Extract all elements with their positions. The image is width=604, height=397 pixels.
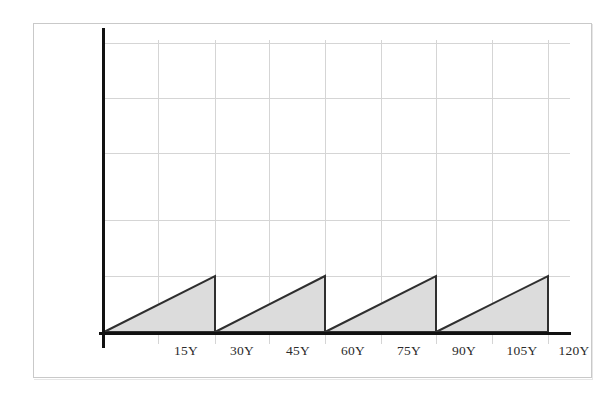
x-tick-label-30y: 30Y bbox=[230, 343, 254, 358]
sawtooth-series bbox=[104, 276, 548, 332]
horizontal-gridline-2 bbox=[103, 220, 570, 221]
vertical-gridlines bbox=[158, 40, 548, 344]
horizontal-gridlines bbox=[103, 43, 570, 277]
sawtooth-chart: 15Y 30Y 45Y 60Y 75Y 90Y 105Y 120Y bbox=[0, 0, 604, 397]
x-tick-label-90y: 90Y bbox=[452, 343, 476, 358]
horizontal-gridline-5 bbox=[103, 43, 570, 44]
x-tick-labels: 15Y 30Y 45Y 60Y 75Y 90Y 105Y 120Y bbox=[174, 343, 589, 358]
horizontal-gridline-1 bbox=[103, 276, 570, 277]
x-tick-label-15y: 15Y bbox=[174, 343, 198, 358]
horizontal-gridline-4 bbox=[103, 98, 570, 99]
x-tick-label-75y: 75Y bbox=[397, 343, 421, 358]
x-tick-label-45y: 45Y bbox=[286, 343, 310, 358]
ramp-cycle-2 bbox=[215, 276, 325, 332]
x-tick-label-120y: 120Y bbox=[559, 343, 590, 358]
horizontal-gridline-3 bbox=[103, 153, 570, 154]
x-tick-label-60y: 60Y bbox=[341, 343, 365, 358]
figure-root: 15Y 30Y 45Y 60Y 75Y 90Y 105Y 120Y bbox=[0, 0, 604, 397]
x-tick-label-105y: 105Y bbox=[507, 343, 538, 358]
ramp-cycle-1 bbox=[104, 276, 215, 332]
